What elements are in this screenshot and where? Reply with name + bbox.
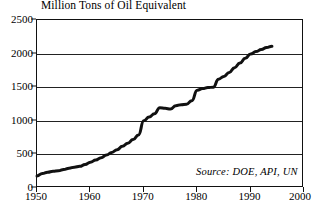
x-tick-label-1950: 1950: [25, 190, 47, 202]
x-tick-label-1970: 1970: [132, 190, 154, 202]
chart-figure: Million Tons of Oil Equivalent 2500 2000…: [0, 0, 317, 218]
y-tick-label-1500: 1500: [11, 81, 33, 92]
y-axis: 2500 2000 1500 1000 500 0: [0, 0, 33, 218]
y-tick-label-2500: 2500: [11, 14, 33, 25]
chart-title: Million Tons of Oil Equivalent: [41, 0, 186, 11]
source-annotation: Source: DOE, API, UN: [196, 166, 298, 177]
data-line-series: [37, 20, 304, 188]
plot-area: [36, 19, 303, 187]
y-tick-label-2000: 2000: [11, 47, 33, 58]
x-tick-label-1960: 1960: [78, 190, 100, 202]
x-tick-label-2000: 2000: [289, 190, 311, 202]
y-tick-label-1000: 1000: [11, 114, 33, 125]
x-tick-label-1990: 1990: [239, 190, 261, 202]
x-tick-label-1980: 1980: [185, 190, 207, 202]
